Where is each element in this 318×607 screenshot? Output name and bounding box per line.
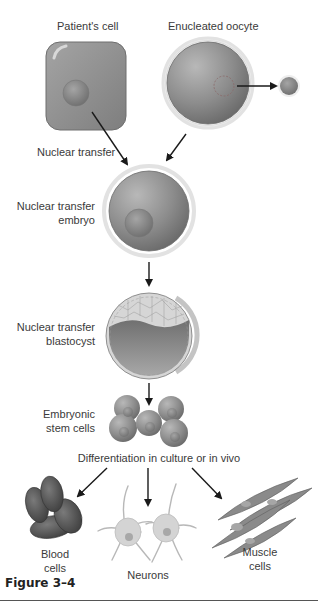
oocyte-icon bbox=[162, 37, 254, 129]
patients-cell-icon bbox=[46, 42, 126, 130]
nt-embryo-icon bbox=[104, 166, 194, 256]
figure-caption: Figure 3–4 bbox=[5, 576, 75, 590]
nt-blastocyst-icon bbox=[106, 293, 197, 379]
label-blood-line2: cells bbox=[25, 562, 85, 575]
label-nt-blastocyst-line2: blastocyst bbox=[0, 335, 95, 348]
label-es-cells-line1: Embryonic bbox=[0, 408, 95, 421]
neurons-icon bbox=[98, 484, 196, 562]
arrow-oocyte-to-embryo bbox=[167, 134, 186, 160]
label-patients-cell: Patient's cell bbox=[57, 20, 118, 33]
label-neurons: Neurons bbox=[118, 569, 178, 582]
label-es-cells-line2: stem cells bbox=[0, 422, 95, 435]
label-nuclear-transfer: Nuclear transfer bbox=[37, 146, 115, 159]
label-blood-line1: Blood bbox=[25, 548, 85, 561]
removed-nucleus-icon bbox=[278, 75, 300, 97]
blood-cells-icon bbox=[22, 474, 88, 541]
label-differentiation: Differentiation in culture or in vivo bbox=[0, 452, 318, 465]
arrow-to-muscle-cells bbox=[192, 468, 221, 498]
label-nt-embryo-line1: Nuclear transfer bbox=[0, 200, 95, 213]
label-muscle-line1: Muscle bbox=[230, 546, 290, 559]
caption-rule bbox=[0, 600, 318, 601]
label-muscle-line2: cells bbox=[230, 560, 290, 573]
arrow-to-blood-cells bbox=[78, 468, 107, 496]
diagram-artwork bbox=[0, 0, 318, 607]
label-nt-blastocyst-line1: Nuclear transfer bbox=[0, 321, 95, 334]
label-nt-embryo-line2: embryo bbox=[0, 214, 95, 227]
label-enucleated-oocyte: Enucleated oocyte bbox=[168, 20, 259, 33]
